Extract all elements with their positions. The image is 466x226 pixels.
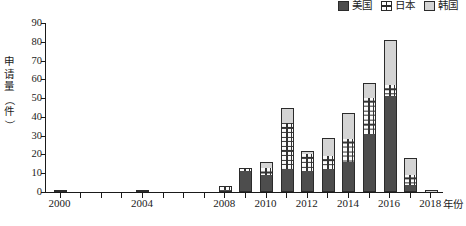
bar-segment-us-2010 xyxy=(260,175,273,192)
bar-2011 xyxy=(281,108,294,193)
y-axis-title-char-1: 请 xyxy=(2,69,16,82)
chart-legend: 美国 日本 韩国 xyxy=(338,1,458,12)
legend-label-korea: 韩国 xyxy=(438,1,458,12)
bar-segment-us-2015 xyxy=(363,134,376,192)
x-axis-label-2004: 2004 xyxy=(131,198,153,209)
bar-2016 xyxy=(384,40,397,192)
bar-segment-us-2013 xyxy=(322,169,335,192)
bar-segment-us-2009 xyxy=(239,171,252,192)
plot-area: 0102030405060708090 xyxy=(45,23,442,192)
y-axis-tick-label: 30 xyxy=(32,130,43,141)
y-axis-title-char-5: ） xyxy=(3,118,16,132)
x-axis-label-2000: 2000 xyxy=(49,198,71,209)
legend-item-korea: 韩国 xyxy=(424,1,458,12)
legend-swatch-us-icon xyxy=(338,1,349,11)
x-axis-label-2018: 2018 xyxy=(419,198,441,209)
bar-segment-us-2012 xyxy=(301,171,314,192)
bar-segment-us-2016 xyxy=(384,96,397,192)
legend-item-us: 美国 xyxy=(338,1,372,12)
bar-segment-korea-2017 xyxy=(404,158,417,175)
bar-segment-us-2017 xyxy=(404,185,417,193)
x-axis-label-2008: 2008 xyxy=(213,198,235,209)
bar-segment-korea-2011 xyxy=(281,108,294,123)
bar-2014 xyxy=(342,113,355,192)
bar-2013 xyxy=(322,138,335,192)
bar-chart: 美国 日本 韩国 申 请 量 （ 件 ） 0102030405060708090… xyxy=(0,0,466,226)
y-axis-tick-label: 20 xyxy=(32,149,43,160)
bar-segment-us-2011 xyxy=(281,169,294,192)
y-axis-tick-label: 50 xyxy=(32,93,43,104)
legend-item-japan: 日本 xyxy=(381,1,415,12)
bar-segment-japan-2010 xyxy=(260,168,273,176)
bar-2010 xyxy=(260,162,273,192)
y-axis-tick-label: 90 xyxy=(32,18,43,29)
y-axis-title-char-2: 量 xyxy=(2,81,16,94)
y-axis-title: 申 请 量 （ 件 ） xyxy=(2,56,16,131)
bar-segment-korea-2016 xyxy=(384,40,397,85)
y-axis-tick-label: 80 xyxy=(32,37,43,48)
bar-segment-japan-2011 xyxy=(281,123,294,170)
bar-2012 xyxy=(301,151,314,192)
bar-segment-japan-2015 xyxy=(363,98,376,134)
x-axis-labels: 20002004200820102012201420162018 xyxy=(0,198,466,216)
bar-segment-japan-2012 xyxy=(301,154,314,171)
bar-segment-korea-2014 xyxy=(342,113,355,139)
bar-2015 xyxy=(363,83,376,192)
bar-segment-us-2014 xyxy=(342,162,355,192)
bar-segment-korea-2015 xyxy=(363,83,376,98)
y-axis-title-char-3: （ xyxy=(3,93,16,107)
bar-segment-korea-2013 xyxy=(322,138,335,157)
bar-segment-japan-2016 xyxy=(384,85,397,96)
legend-label-us: 美国 xyxy=(352,1,372,12)
x-axis-label-2012: 2012 xyxy=(296,198,318,209)
legend-label-japan: 日本 xyxy=(395,1,415,12)
x-axis-label-2014: 2014 xyxy=(337,198,359,209)
legend-swatch-japan-icon xyxy=(381,1,392,11)
bar-2009 xyxy=(239,168,252,192)
y-axis-tick-label: 60 xyxy=(32,74,43,85)
y-axis-tick-label: 0 xyxy=(37,187,42,198)
y-axis-tick-label: 40 xyxy=(32,112,43,123)
y-axis-tick-label: 70 xyxy=(32,55,43,66)
y-axis-tick-label: 10 xyxy=(32,168,43,179)
x-axis-title: 年份 xyxy=(443,200,463,211)
x-axis-label-2010: 2010 xyxy=(255,198,277,209)
x-axis-label-2016: 2016 xyxy=(378,198,400,209)
bar-segment-japan-2014 xyxy=(342,139,355,162)
bar-2017 xyxy=(404,158,417,192)
y-axis-title-char-0: 申 xyxy=(2,56,16,69)
bar-segment-japan-2017 xyxy=(404,175,417,184)
y-axis-title-char-4: 件 xyxy=(2,106,16,119)
legend-swatch-korea-icon xyxy=(424,1,435,11)
bar-segment-japan-2013 xyxy=(322,156,335,169)
